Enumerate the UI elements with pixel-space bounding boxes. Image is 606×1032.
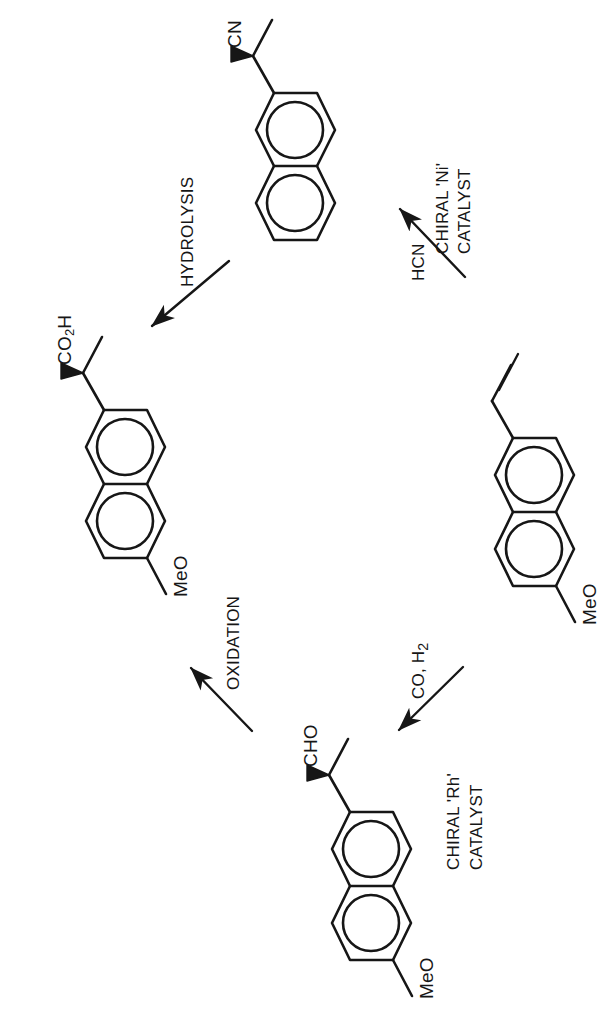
atom-label-meo-naproxen: MeO	[170, 555, 192, 597]
condition-label-catalyst-ni: CATALYST	[455, 168, 475, 254]
molecule-vinylnaphthalene	[492, 354, 575, 622]
atom-label-meo-aldehyde: MeO	[416, 957, 438, 999]
reaction-scheme-canvas: CN CO2H MeO CHO MeO MeO HYDROLYSIS HCN C…	[0, 0, 606, 1032]
co2h-main-text: CO	[54, 336, 75, 365]
condition-label-chiral-ni: CHIRAL 'Ni'	[432, 163, 453, 254]
atom-label-cn: CN	[224, 20, 246, 48]
atom-label-co2h: CO2H	[54, 315, 77, 365]
chiral-ni-line1: CHIRAL 'Ni'	[432, 163, 453, 254]
atom-label-cho: CHO	[300, 724, 322, 767]
condition-label-oxidation: OXIDATION	[224, 596, 244, 690]
atom-label-meo-vinyl: MeO	[579, 583, 601, 625]
co-h2-main-text: CO, H	[409, 651, 428, 699]
molecule-aldehyde	[307, 739, 412, 996]
structures-svg	[0, 0, 606, 1032]
co2h-subscript: 2	[62, 329, 77, 336]
condition-label-hydrolysis: HYDROLYSIS	[178, 177, 198, 287]
co2h-tail-text: H	[54, 315, 75, 329]
co-h2-subscript: 2	[415, 643, 431, 651]
condition-label-catalyst-rh: CATALYST	[467, 784, 487, 870]
molecule-naproxen	[61, 337, 166, 594]
condition-label-hcn: HCN	[409, 244, 429, 281]
condition-label-chiral-rh: CHIRAL 'Rh'	[444, 773, 464, 870]
condition-label-co-h2: CO, H2	[409, 643, 431, 699]
molecule-nitrile	[231, 20, 335, 240]
